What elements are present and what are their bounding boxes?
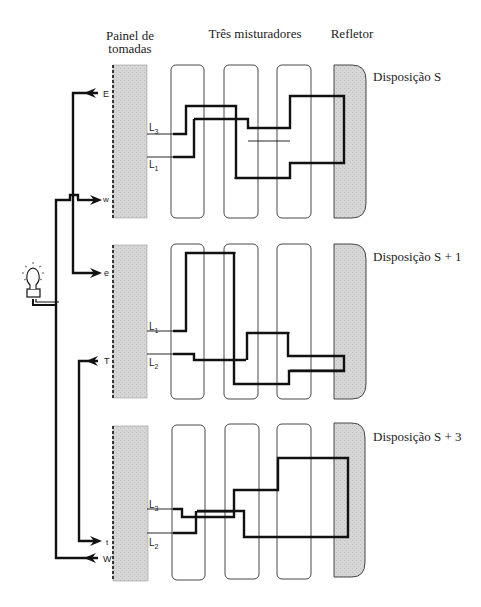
beam-thin bbox=[147, 458, 346, 537]
line-label-l3: L3 bbox=[149, 122, 159, 135]
wiring bbox=[56, 93, 98, 558]
line-label-l1: L1 bbox=[149, 321, 159, 334]
line-label-l2: L2 bbox=[149, 537, 159, 550]
lamp-icon bbox=[22, 262, 59, 305]
reflector bbox=[334, 244, 366, 399]
mixer-2 bbox=[224, 65, 258, 218]
arrangement-s-plus-3: L3 L2 t W bbox=[103, 423, 365, 581]
outlet-panel bbox=[113, 245, 147, 398]
mixer-1 bbox=[171, 244, 204, 399]
beam-path-l3 bbox=[173, 96, 344, 178]
beam-path-l3 bbox=[173, 458, 348, 537]
port-label-w: w bbox=[102, 195, 109, 204]
beam-path-l2 bbox=[173, 511, 196, 533]
beam-thin bbox=[147, 253, 344, 384]
mixer-3 bbox=[277, 424, 311, 579]
mixer-3 bbox=[277, 65, 311, 218]
arrowheads bbox=[84, 88, 102, 563]
mixer-1 bbox=[172, 425, 205, 580]
mixer-1 bbox=[171, 65, 204, 218]
line-label-l3: L3 bbox=[149, 499, 159, 512]
reflector bbox=[334, 65, 366, 218]
port-label-e: e bbox=[104, 268, 109, 278]
beam-path-l1 bbox=[173, 253, 344, 384]
beam-thin bbox=[147, 96, 341, 178]
port-label-T: T bbox=[104, 356, 110, 366]
port-label-W: W bbox=[103, 554, 112, 564]
beam-path-l1 bbox=[173, 119, 194, 157]
arrangement-s-plus-1: L1 L2 e T bbox=[104, 244, 366, 399]
reflector bbox=[334, 423, 365, 577]
port-label-E: E bbox=[103, 89, 109, 99]
mixer-2 bbox=[224, 244, 258, 399]
line-label-l1: L1 bbox=[149, 159, 159, 172]
arrangement-s: L3 L1 E w bbox=[102, 65, 366, 218]
line-label-l2: L2 bbox=[149, 357, 159, 370]
mixer-3 bbox=[277, 244, 311, 399]
outlet-panel bbox=[113, 65, 147, 218]
outlet-panel bbox=[113, 426, 148, 581]
mixer-2 bbox=[225, 424, 259, 579]
port-label-t: t bbox=[106, 538, 109, 547]
